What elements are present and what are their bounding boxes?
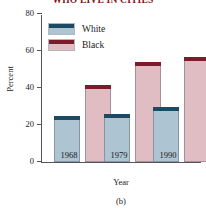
y-tick-label-80: 80 — [26, 8, 35, 18]
figure-container: WHO LIVE IN CITIES Percent 0 20 40 60 80 — [0, 0, 206, 213]
y-tick-0: 0 — [37, 161, 42, 162]
bar-black-1990[interactable] — [184, 57, 206, 162]
y-tick-label-60: 60 — [26, 45, 35, 55]
legend-label-white: White — [82, 22, 105, 36]
x-tick-label-1990: 1990 — [138, 150, 198, 160]
legend-item-black[interactable]: Black — [48, 38, 122, 52]
bar-cap — [184, 57, 206, 61]
y-tick-label-40: 40 — [26, 82, 35, 92]
y-tick-80: 80 — [37, 13, 42, 14]
legend-swatch-black-icon — [48, 39, 75, 51]
x-axis-label: Year — [41, 177, 201, 187]
y-tick-60: 60 — [37, 50, 42, 51]
figure-caption: (b) — [41, 196, 201, 206]
legend-swatch-white-icon — [48, 23, 75, 35]
chart-title: WHO LIVE IN CITIES — [0, 0, 206, 6]
chart-legend: White Black — [48, 22, 122, 54]
y-tick-label-0: 0 — [30, 156, 34, 166]
swatch-body — [49, 28, 74, 35]
y-tick-40: 40 — [37, 87, 42, 88]
swatch-body — [49, 44, 74, 51]
y-tick-20: 20 — [37, 124, 42, 125]
bar-group-1990 — [153, 15, 206, 162]
bar-cap — [54, 116, 80, 120]
legend-label-black: Black — [82, 38, 104, 52]
y-tick-label-20: 20 — [26, 119, 35, 129]
bar-body — [184, 61, 206, 162]
bar-cap — [104, 114, 130, 118]
bar-cap — [153, 107, 179, 111]
y-axis-label: Percent — [5, 49, 15, 109]
legend-item-white[interactable]: White — [48, 22, 122, 36]
